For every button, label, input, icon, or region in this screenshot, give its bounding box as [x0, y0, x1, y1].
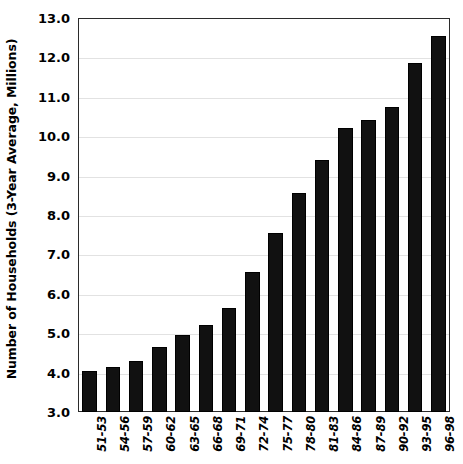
x-tick-label: 78-80: [304, 416, 318, 452]
bar: [408, 63, 422, 412]
y-tick-label: 7.0: [47, 247, 70, 262]
bar: [361, 120, 375, 412]
y-axis-tick-labels: 13.012.011.010.09.08.07.06.05.04.03.0: [22, 0, 74, 464]
bars-layer: [78, 18, 450, 412]
x-tick-label: 84-86: [350, 416, 364, 452]
x-tick-label: 93-95: [420, 416, 434, 452]
y-tick-label: 11.0: [38, 89, 70, 104]
x-tick-label: 57-59: [141, 416, 155, 452]
x-tick-label: 87-89: [374, 416, 388, 452]
x-tick-label: 63-65: [188, 416, 202, 452]
x-tick-label: 75-77: [281, 416, 295, 452]
bar: [175, 335, 189, 412]
y-tick-label: 3.0: [47, 405, 70, 420]
bar: [222, 308, 236, 412]
bar: [292, 193, 306, 412]
bar: [431, 36, 445, 412]
x-tick-label: 66-68: [211, 416, 225, 452]
y-tick-label: 10.0: [38, 129, 70, 144]
bar: [106, 367, 120, 412]
x-tick-label: 81-83: [327, 416, 341, 452]
y-tick-label: 13.0: [38, 11, 70, 26]
x-axis-tick-labels: 51-5354-5657-5960-6263-6566-6869-7172-74…: [78, 412, 450, 464]
y-tick-label: 9.0: [47, 168, 70, 183]
bar: [338, 128, 352, 412]
y-tick-label: 8.0: [47, 208, 70, 223]
bar: [315, 160, 329, 412]
y-axis-title: Number of Households (3-Year Average, Mi…: [0, 0, 22, 418]
x-tick-label: 60-62: [164, 416, 178, 452]
bar: [385, 107, 399, 412]
x-tick-label: 54-56: [118, 416, 132, 452]
y-tick-label: 5.0: [47, 326, 70, 341]
y-tick-label: 4.0: [47, 365, 70, 380]
x-tick-label: 72-74: [257, 416, 271, 452]
bar: [152, 347, 166, 412]
bar: [82, 371, 96, 412]
x-tick-label: 69-71: [234, 416, 248, 452]
y-tick-label: 6.0: [47, 286, 70, 301]
y-tick-label: 12.0: [38, 50, 70, 65]
x-tick-label: 96-98: [443, 416, 457, 452]
bar: [129, 361, 143, 412]
bar: [199, 325, 213, 412]
bar: [268, 233, 282, 412]
x-tick-label: 51-53: [95, 416, 109, 452]
bar-chart: Number of Households (3-Year Average, Mi…: [0, 0, 463, 464]
x-tick-label: 90-92: [397, 416, 411, 452]
bar: [245, 272, 259, 412]
